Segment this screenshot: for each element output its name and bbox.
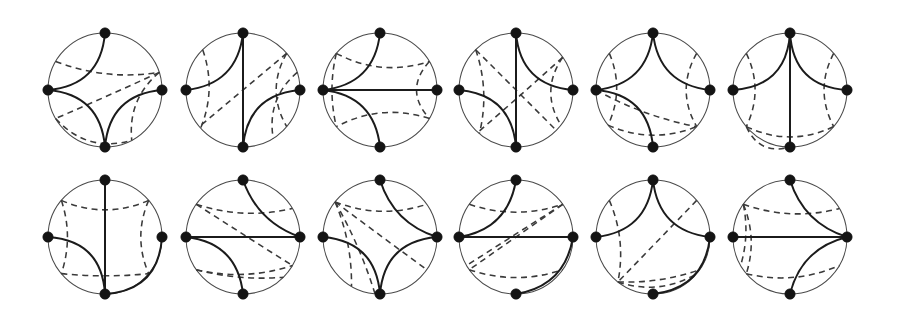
vertex-bottom[interactable] [238, 142, 248, 152]
vertex-bottom[interactable] [238, 289, 248, 299]
dashed-arc-3 [746, 266, 839, 278]
vertex-top[interactable] [511, 175, 521, 185]
solid-arc-1 [733, 33, 790, 90]
solid-arc-1 [516, 33, 573, 90]
vertex-right[interactable] [295, 85, 305, 95]
disk-boundary-circle [323, 180, 437, 294]
dashed-arc-1 [476, 50, 484, 134]
dashed-arc-2 [743, 204, 751, 273]
dashed-arc-2 [335, 202, 427, 270]
vertex-right[interactable] [432, 85, 442, 95]
panel-r2c6[interactable] [728, 175, 852, 299]
vertex-bottom[interactable] [375, 289, 385, 299]
dashed-arc-2 [824, 53, 834, 126]
dashed-arc-2 [196, 204, 292, 265]
panel-r1c3[interactable] [318, 28, 442, 152]
solid-arc-3 [653, 237, 710, 294]
vertex-right[interactable] [157, 232, 167, 242]
solid-arc-3 [186, 237, 243, 294]
vertex-top[interactable] [100, 28, 110, 38]
panel-r2c2[interactable] [181, 175, 305, 299]
vertex-top[interactable] [375, 28, 385, 38]
solid-arc-2 [790, 33, 847, 90]
vertex-right[interactable] [705, 85, 715, 95]
dashed-arc-2 [618, 200, 697, 282]
vertex-bottom[interactable] [511, 289, 521, 299]
panel-r1c6[interactable] [728, 28, 852, 152]
vertex-top[interactable] [238, 28, 248, 38]
vertex-left[interactable] [728, 232, 738, 242]
dashed-arc-2 [61, 200, 67, 273]
figure-root [0, 0, 898, 314]
solid-arc-3 [105, 90, 162, 147]
dashed-arc-3 [469, 270, 562, 278]
dashed-arc-1 [56, 62, 160, 75]
dashed-arc-4 [618, 270, 700, 282]
disk-boundary-circle [48, 33, 162, 147]
vertex-left[interactable] [181, 232, 191, 242]
dashed-arc-3 [336, 112, 429, 126]
vertex-left[interactable] [454, 85, 464, 95]
vertex-left[interactable] [318, 232, 328, 242]
vertex-top[interactable] [648, 175, 658, 185]
vertex-left[interactable] [318, 85, 328, 95]
vertex-bottom[interactable] [100, 289, 110, 299]
solid-arc-1 [186, 33, 243, 90]
vertex-right[interactable] [432, 232, 442, 242]
panel-r2c5[interactable] [591, 175, 715, 299]
vertex-right[interactable] [568, 232, 578, 242]
dashed-arc-1 [743, 204, 839, 214]
panel-r1c5[interactable] [591, 28, 715, 152]
vertex-right[interactable] [705, 232, 715, 242]
panel-r2c1[interactable] [43, 175, 167, 299]
vertex-right[interactable] [295, 232, 305, 242]
dashed-arc-1 [469, 204, 562, 212]
vertex-bottom[interactable] [648, 142, 658, 152]
solid-arc-3 [380, 237, 437, 294]
dashed-arc-2 [686, 53, 696, 126]
vertex-left[interactable] [181, 85, 191, 95]
panel-r2c3[interactable] [318, 175, 442, 299]
vertex-right[interactable] [842, 85, 852, 95]
disk-boundary-circle [596, 33, 710, 147]
vertex-bottom[interactable] [511, 142, 521, 152]
solid-arc-1 [596, 180, 653, 237]
vertex-top[interactable] [375, 175, 385, 185]
vertex-bottom[interactable] [375, 142, 385, 152]
vertex-left[interactable] [591, 85, 601, 95]
dashed-arc-3 [618, 274, 697, 288]
dashed-arc-4 [56, 119, 132, 144]
vertex-left[interactable] [591, 232, 601, 242]
vertex-left[interactable] [43, 232, 53, 242]
vertex-top[interactable] [100, 175, 110, 185]
vertex-top[interactable] [785, 175, 795, 185]
vertex-left[interactable] [728, 85, 738, 95]
vertex-bottom[interactable] [785, 142, 795, 152]
dashed-arc-4 [467, 204, 563, 265]
vertex-left[interactable] [454, 232, 464, 242]
vertex-top[interactable] [648, 28, 658, 38]
panel-r1c2[interactable] [181, 28, 305, 152]
solid-arc-3 [596, 90, 653, 147]
vertex-bottom[interactable] [648, 289, 658, 299]
vertex-bottom[interactable] [785, 289, 795, 299]
vertex-right[interactable] [157, 85, 167, 95]
panel-r1c1[interactable] [43, 28, 167, 152]
vertex-top[interactable] [238, 175, 248, 185]
solid-arc-2 [48, 237, 105, 294]
panel-r1c4[interactable] [454, 28, 578, 152]
panel-r2c4[interactable] [454, 175, 578, 299]
solid-arc-1 [596, 33, 653, 90]
dashed-arc-1 [201, 50, 210, 128]
vertex-right[interactable] [568, 85, 578, 95]
dashed-arc-4 [478, 57, 563, 132]
dashed-arc-3 [141, 200, 149, 273]
vertex-top[interactable] [511, 28, 521, 38]
vertex-right[interactable] [842, 232, 852, 242]
vertex-bottom[interactable] [100, 142, 110, 152]
solid-arc-1 [459, 180, 516, 237]
solid-arc-3 [459, 90, 516, 147]
vertex-left[interactable] [43, 85, 53, 95]
dashed-arc-1 [335, 202, 427, 211]
vertex-top[interactable] [785, 28, 795, 38]
